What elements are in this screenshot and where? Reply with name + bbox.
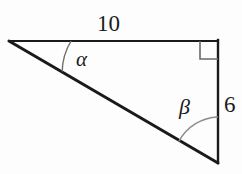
alpha-angle-arc-icon — [62, 41, 71, 72]
angle-label-alpha: α — [76, 49, 87, 70]
triangle-drawing — [0, 0, 242, 174]
triangle-figure: 10 6 α β — [0, 0, 242, 174]
angle-label-beta: β — [179, 96, 190, 118]
side-length-label-top: 10 — [97, 12, 120, 35]
side-length-label-right: 6 — [224, 93, 236, 116]
right-angle-marker-icon — [200, 41, 218, 59]
beta-angle-arc-icon — [179, 117, 218, 141]
